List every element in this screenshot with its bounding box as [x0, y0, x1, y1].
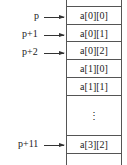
memory-cell: a[1][0] — [67, 60, 121, 78]
pointer-label: p+11 — [18, 138, 38, 149]
arrow-icon — [44, 53, 64, 54]
pointer-label: p — [34, 10, 39, 21]
memory-cell: a[0][2] — [67, 42, 121, 60]
pointer-label: p+2 — [22, 46, 38, 57]
ellipsis-cell: ⋮ — [67, 96, 121, 136]
memory-cell: a[3][2] — [67, 136, 121, 154]
memory-cell: a[0][0] — [67, 7, 121, 25]
arrow-icon — [44, 35, 64, 36]
memory-cell — [67, 154, 121, 165]
memory-cell: a[0][1] — [67, 25, 121, 42]
memory-array: a[0][0] a[0][1] a[0][2] a[1][0] a[1][1] … — [66, 0, 122, 165]
memory-cell — [67, 0, 121, 7]
memory-cell: a[1][1] — [67, 78, 121, 96]
arrow-icon — [44, 17, 64, 18]
arrow-icon — [44, 145, 64, 146]
pointer-label: p+1 — [22, 28, 38, 39]
